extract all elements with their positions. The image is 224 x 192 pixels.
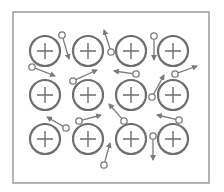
electron-dot-icon <box>108 49 114 55</box>
electron-motion-arrow-icon <box>82 115 101 120</box>
electron-dot-icon <box>150 133 156 139</box>
positive-ion <box>73 124 103 154</box>
positive-ion <box>30 36 60 66</box>
electron-dot-icon <box>29 64 35 70</box>
diagram-canvas <box>0 0 224 192</box>
electron <box>149 75 164 100</box>
plus-sign-icon <box>165 131 181 147</box>
electron-dot-icon <box>176 117 182 123</box>
positive-ion <box>73 80 103 110</box>
electron <box>104 30 114 55</box>
electron <box>172 66 197 77</box>
electron <box>114 71 139 77</box>
plus-sign-icon <box>37 131 53 147</box>
electron-dot-icon <box>151 33 157 39</box>
positive-ion <box>73 36 103 66</box>
electron-motion-arrow-icon <box>157 115 176 119</box>
electron <box>76 115 101 124</box>
plus-sign-icon <box>80 131 96 147</box>
plus-sign-icon <box>80 43 96 59</box>
positive-ion <box>158 36 188 66</box>
positive-ion <box>30 124 60 154</box>
plus-sign-icon <box>37 87 53 103</box>
plus-sign-icon <box>37 43 53 59</box>
positive-ion <box>116 36 146 66</box>
electron-motion-arrow-icon <box>35 68 55 76</box>
electron <box>150 133 156 160</box>
plus-sign-icon <box>123 131 139 147</box>
electron-dot-icon <box>101 162 107 168</box>
electron-dot-icon <box>149 94 155 100</box>
positive-ion <box>158 80 188 110</box>
plus-sign-icon <box>123 87 139 103</box>
electron-dot-icon <box>63 125 69 131</box>
electron-motion-arrow-icon <box>63 38 69 59</box>
electron-dot-icon <box>121 118 127 124</box>
electron-motion-arrow-icon <box>105 143 110 162</box>
plus-sign-icon <box>123 43 139 59</box>
electron-dot-icon <box>172 71 178 77</box>
electron-dot-icon <box>59 32 65 38</box>
plus-sign-icon <box>165 43 181 59</box>
positive-ion <box>116 124 146 154</box>
electron-motion-arrow-icon <box>114 71 133 74</box>
plus-sign-icon <box>165 87 181 103</box>
electron <box>101 143 110 168</box>
electron-dot-icon <box>133 71 139 77</box>
electron <box>157 115 182 123</box>
metallic-bonding-diagram <box>0 0 224 192</box>
electron-dot-icon <box>76 118 82 124</box>
electron <box>109 104 127 124</box>
positive-ion <box>116 80 146 110</box>
electron <box>151 33 157 60</box>
positive-ion <box>158 124 188 154</box>
positive-ion <box>30 80 60 110</box>
electron-dot-icon <box>70 78 76 84</box>
electron-motion-arrow-icon <box>76 70 97 80</box>
electron-motion-arrow-icon <box>104 30 110 49</box>
electron <box>70 70 97 84</box>
plus-sign-icon <box>80 87 96 103</box>
electron-motion-arrow-icon <box>178 66 197 73</box>
